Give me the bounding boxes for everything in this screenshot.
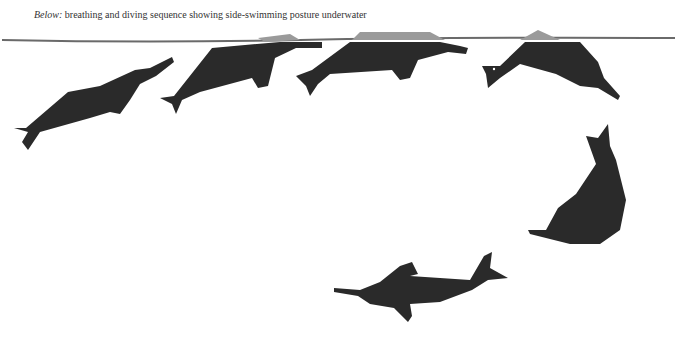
dolphin-1-ascending [14, 57, 174, 150]
dolphin-sequence-illustration [0, 0, 675, 342]
dolphin-6-side-swimming [334, 252, 508, 322]
dolphin-5-descending [528, 124, 626, 244]
dolphin-3-breathing [296, 32, 468, 96]
waterline [2, 38, 675, 42]
dolphin-4-diving [482, 30, 620, 100]
dolphin-2-surfacing [160, 34, 322, 114]
